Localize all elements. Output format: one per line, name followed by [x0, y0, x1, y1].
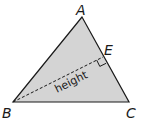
triangle-diagram: A E B C height	[0, 0, 146, 125]
vertex-label-c: C	[126, 105, 136, 121]
vertex-label-a: A	[75, 2, 86, 18]
vertex-label-e: E	[104, 42, 113, 58]
vertex-label-b: B	[2, 105, 12, 121]
